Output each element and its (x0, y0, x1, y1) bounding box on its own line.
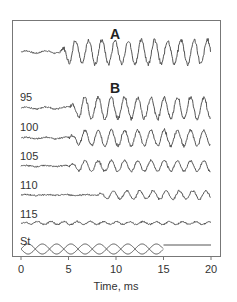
trace-100 (21, 129, 211, 148)
x-tick-label-20: 20 (205, 264, 217, 275)
trace-stimulus-envelope (21, 249, 163, 254)
trace-label-95: 95 (20, 92, 32, 103)
x-axis-label: Time, ms (94, 281, 139, 292)
panel-label-b: B (110, 81, 120, 95)
trace-105 (21, 160, 211, 173)
trace-stimulus-envelope (21, 244, 163, 249)
x-tick-label-5: 5 (65, 264, 71, 275)
trace-A (21, 38, 211, 66)
traces (21, 38, 211, 254)
trace-95 (21, 96, 211, 120)
trace-115 (21, 221, 211, 225)
x-tick-label-15: 15 (157, 264, 169, 275)
trace-label-110: 110 (20, 180, 38, 191)
panel-label-a: A (110, 27, 120, 41)
x-tick-label-10: 10 (110, 264, 122, 275)
trace-label-105: 105 (20, 151, 38, 162)
trace-label-100: 100 (20, 122, 38, 133)
trace-label-st: St (20, 236, 30, 247)
x-tick-label-0: 0 (18, 264, 24, 275)
trace-label-115: 115 (20, 209, 38, 220)
trace-110 (21, 190, 211, 200)
